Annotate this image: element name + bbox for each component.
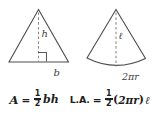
cone-sector-figure: ℓ 2πr [87, 10, 146, 82]
triangle-base-label: b [54, 67, 60, 78]
lateral-slant-term: ℓ [145, 94, 149, 106]
lateral-formula-lhs: L.A. [70, 94, 90, 105]
triangle-area-formula: A = 1 2 bh [10, 90, 59, 108]
lateral-formula-fraction: 1 2 [105, 90, 113, 108]
lateral-close-paren: ) [139, 93, 144, 106]
triangle-height-label: h [42, 28, 48, 39]
cone-arc-label: 2πr [121, 71, 140, 82]
area-formula-rhs: bh [43, 93, 59, 106]
area-fraction-numerator: 1 [34, 90, 42, 99]
cone-lateral-area-formula: L.A. = 1 2 ( 2πr ) ℓ [70, 90, 150, 108]
lateral-fraction-denominator: 2 [105, 100, 113, 109]
right-angle-mark [38, 53, 47, 62]
formula-row: A = 1 2 bh L.A. = 1 2 ( 2πr ) ℓ [0, 83, 159, 116]
area-fraction-denominator: 2 [34, 100, 42, 109]
area-formula-equals: = [22, 94, 31, 106]
lateral-formula-equals: = [93, 94, 102, 106]
lateral-circumference-term: 2πr [118, 94, 139, 106]
lateral-fraction-numerator: 1 [105, 90, 113, 99]
geometry-figure-panel: h b ℓ 2πr A = 1 2 bh L [0, 0, 159, 116]
triangle-figure: h b [9, 10, 69, 78]
area-formula-lhs: A [10, 93, 19, 107]
area-formula-fraction: 1 2 [34, 90, 42, 108]
cone-slant-label: ℓ [119, 30, 123, 41]
